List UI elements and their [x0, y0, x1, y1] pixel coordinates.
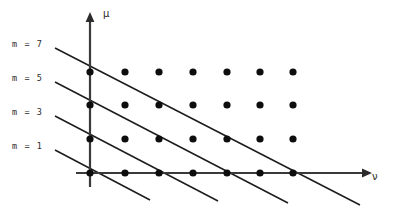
- nu-axis-label: ν: [372, 172, 378, 182]
- m-label-3: m = 1: [12, 142, 43, 151]
- lattice-dot: [256, 101, 263, 108]
- lattice-dot: [86, 169, 93, 176]
- lattice-dot: [121, 135, 128, 142]
- lattice-dot: [189, 68, 196, 75]
- lattice-dot: [223, 135, 230, 142]
- lattice-dot: [256, 169, 263, 176]
- lattice-dot: [289, 135, 296, 142]
- lattice-dot: [189, 135, 196, 142]
- lattice-dot: [223, 169, 230, 176]
- horizontal-axis-arrowhead: [362, 169, 372, 178]
- lattice-dot: [289, 68, 296, 75]
- lattice-dot: [155, 68, 162, 75]
- lattice-dot: [86, 68, 93, 75]
- lattice-dot: [289, 101, 296, 108]
- diagonal-line-m-7: [55, 48, 360, 205]
- lattice-dot: [223, 68, 230, 75]
- m-label-1: m = 5: [12, 74, 43, 83]
- lattice-diagram: m = 7m = 5m = 3m = 1 μ ν: [0, 0, 393, 218]
- mu-axis-label: μ: [103, 9, 109, 19]
- lattice-dot: [256, 135, 263, 142]
- diagonal-lines-group: [55, 48, 360, 205]
- lattice-dot: [256, 68, 263, 75]
- m-label-0: m = 7: [12, 40, 43, 49]
- lattice-dot: [289, 169, 296, 176]
- lattice-dots-group: [86, 68, 296, 176]
- lattice-dot: [155, 135, 162, 142]
- lattice-dot: [189, 169, 196, 176]
- lattice-dot: [155, 169, 162, 176]
- lattice-dot: [189, 101, 196, 108]
- plot-canvas: [0, 0, 393, 218]
- diagonal-line-m-3: [55, 116, 218, 201]
- lattice-dot: [86, 101, 93, 108]
- lattice-dot: [121, 169, 128, 176]
- lattice-dot: [223, 101, 230, 108]
- axes-group: [76, 12, 372, 187]
- m-label-2: m = 3: [12, 108, 43, 117]
- lattice-dot: [121, 101, 128, 108]
- lattice-dot: [121, 68, 128, 75]
- lattice-dot: [155, 101, 162, 108]
- vertical-axis-arrowhead: [86, 12, 95, 22]
- lattice-dot: [86, 135, 93, 142]
